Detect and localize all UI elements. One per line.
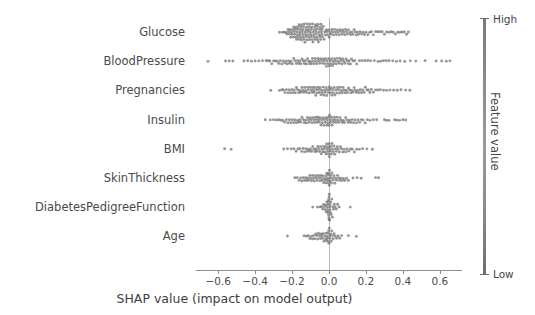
y-axis-label-insulin: Insulin [0, 114, 185, 126]
beeswarm-row-pregnancies [196, 75, 462, 105]
colorbar-title: Feature value [488, 92, 502, 212]
beeswarm-row-bloodpressure [196, 46, 462, 76]
x-tick-label: 0.2 [346, 275, 386, 287]
x-tick-mark [255, 270, 256, 274]
x-tick-mark [366, 270, 367, 274]
x-tick-label: 0.4 [383, 275, 423, 287]
colorbar-gradient-bar [483, 19, 486, 274]
colorbar-high-label: High [493, 13, 517, 25]
x-tick-mark [329, 270, 330, 274]
beeswarm-row-skinthickness [196, 163, 462, 193]
colorbar-low-label: Low [493, 268, 514, 280]
beeswarm-row-glucose [196, 17, 462, 47]
beeswarm-points [196, 46, 462, 76]
beeswarm-row-age [196, 221, 462, 251]
y-axis-label-bloodpressure: BloodPressure [0, 55, 185, 67]
x-tick-label: −0.4 [235, 275, 275, 287]
beeswarm-points [196, 192, 462, 222]
x-axis-title: SHAP value (impact on model output) [0, 291, 535, 306]
plot-area [196, 14, 462, 270]
y-axis-label-age: Age [0, 230, 185, 242]
beeswarm-points [196, 105, 462, 135]
x-tick-mark [292, 270, 293, 274]
x-tick-label: −0.6 [198, 275, 238, 287]
beeswarm-row-diabetespedigreefunction [196, 192, 462, 222]
beeswarm-points [196, 221, 462, 251]
y-axis-label-pregnancies: Pregnancies [0, 84, 185, 96]
x-tick-mark [403, 270, 404, 274]
beeswarm-points [196, 134, 462, 164]
colorbar-cap-top [480, 18, 489, 19]
beeswarm-row-insulin [196, 105, 462, 135]
beeswarm-points [196, 75, 462, 105]
shap-summary-plot-figure: GlucoseBloodPressurePregnanciesInsulinBM… [0, 0, 535, 315]
x-tick-label: 0.6 [420, 275, 460, 287]
x-tick-label: 0.0 [309, 275, 349, 287]
x-tick-label: −0.2 [272, 275, 312, 287]
y-axis-label-bmi: BMI [0, 143, 185, 155]
beeswarm-points [196, 163, 462, 193]
x-tick-mark [218, 270, 219, 274]
x-tick-mark [440, 270, 441, 274]
beeswarm-row-bmi [196, 134, 462, 164]
y-axis-label-skinthickness: SkinThickness [0, 172, 185, 184]
y-axis-label-diabetespedigreefunction: DiabetesPedigreeFunction [0, 201, 185, 213]
y-axis-label-glucose: Glucose [0, 26, 185, 38]
colorbar-cap-bottom [480, 274, 489, 275]
colorbar: High Low Feature value [466, 12, 535, 284]
beeswarm-points [196, 17, 462, 47]
